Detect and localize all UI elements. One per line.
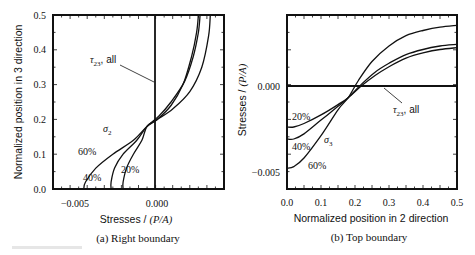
chart-b-label-20: 20%: [292, 111, 310, 122]
chart-a-ylabel: Normalized position in 3 direction: [12, 25, 24, 180]
chart-b-label-40: 40%: [292, 141, 310, 152]
curve--3-20-: [287, 48, 457, 128]
chart-a-curves: [84, 15, 211, 189]
chart-a-tau23-label: τ23, all: [90, 54, 116, 68]
chart-a-label-20: 20%: [121, 164, 139, 175]
chart-a-label-60: 60%: [78, 146, 96, 157]
chart-a-xlabel: Stresses / (P/A): [100, 213, 173, 226]
chart-b-xtick: 0.3: [383, 197, 396, 208]
curve--3-60-: [287, 25, 457, 168]
chart-a-sigma2-label: σ2: [103, 123, 112, 137]
chart-a-ticks: [53, 15, 224, 189]
chart-a-xtick: −0.005: [61, 198, 89, 209]
chart-b-ytick: −0.005: [252, 167, 280, 178]
chart-a-frame: [53, 15, 224, 189]
chart-b-xtick: 0.5: [451, 197, 464, 208]
chart-b-xtick: 0.4: [417, 197, 430, 208]
chart-a-ytick: 0.2: [34, 114, 47, 125]
figure: 0.0 0.1 0.2 0.3 0.4 0.5 −0.005 0.000 Str…: [0, 0, 475, 255]
chart-a-ytick: 0.5: [34, 10, 47, 21]
chart-a-ytick: 0.4: [34, 44, 47, 55]
chart-a-ytick: 0.3: [34, 79, 47, 90]
chart-b-ytick: 0.000: [258, 81, 281, 92]
chart-a-caption: (a) Right boundary: [96, 232, 180, 245]
chart-b-tau23-label: τ23, all: [393, 104, 419, 118]
chart-b-caption: (b) Top boundary: [331, 231, 408, 244]
chart-b-tau23-leader: [384, 88, 402, 103]
chart-a-ytick: 0.1: [34, 149, 47, 160]
chart-b: 0.000 −0.005 0.0 0.1 0.2 0.3 0.4 0.5 Nor…: [236, 15, 463, 244]
chart-b-xlabel: Normalized position in 2 direction: [294, 212, 449, 224]
chart-a-tau23-leader: [120, 65, 154, 82]
chart-a-xtick: 0.000: [146, 198, 169, 209]
chart-b-xtick: 0.0: [281, 197, 294, 208]
chart-b-xtick: 0.1: [315, 197, 328, 208]
figure-footer-mark: [12, 246, 82, 249]
chart-b-sigma3-label: σ3: [324, 134, 333, 148]
chart-b-ylabel: Stresses / (P/A): [236, 63, 249, 136]
chart-b-xtick: 0.2: [349, 197, 362, 208]
chart-a: 0.0 0.1 0.2 0.3 0.4 0.5 −0.005 0.000 Str…: [12, 10, 224, 246]
chart-a-ytick: 0.0: [34, 184, 47, 195]
curve--3-40-: [287, 44, 457, 139]
chart-b-label-60: 60%: [308, 160, 326, 171]
chart-b-curves: [287, 25, 457, 168]
chart-a-label-40: 40%: [83, 172, 101, 183]
